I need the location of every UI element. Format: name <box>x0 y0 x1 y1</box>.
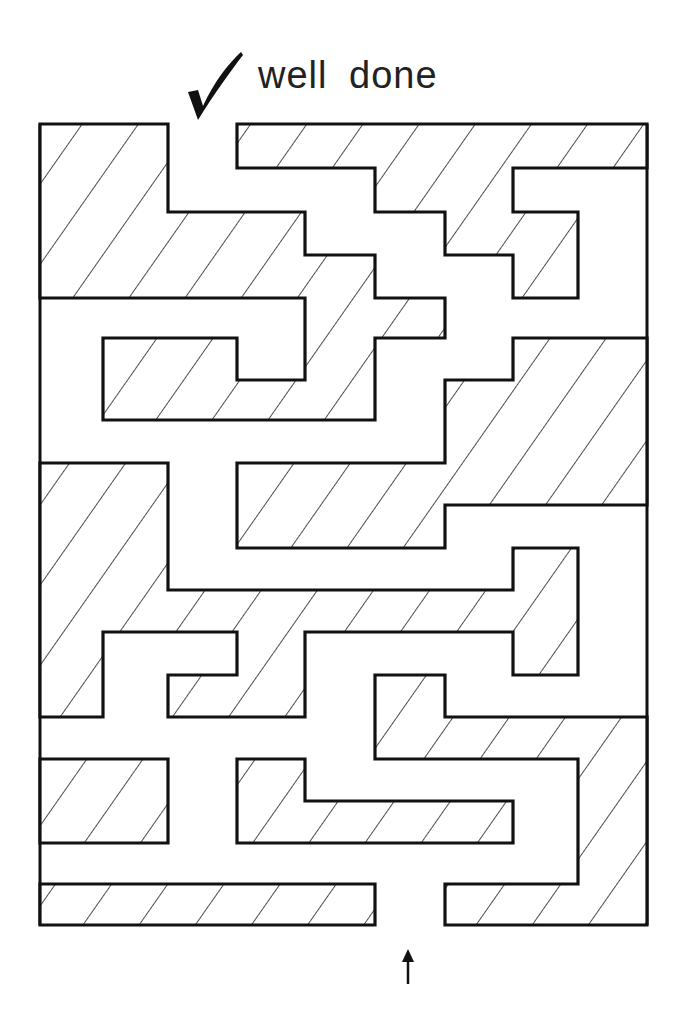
maze-wall-g <box>237 759 513 843</box>
maze-puzzle: well done <box>0 0 687 1019</box>
maze-walls <box>40 124 647 925</box>
up-arrow-icon <box>402 949 414 984</box>
maze-wall-h <box>40 884 375 925</box>
maze-canvas <box>0 0 687 1019</box>
maze-wall-c <box>237 338 647 548</box>
maze-wall-f <box>40 759 168 843</box>
well-done-caption: well done <box>258 54 438 97</box>
checkmark-icon <box>188 52 243 120</box>
